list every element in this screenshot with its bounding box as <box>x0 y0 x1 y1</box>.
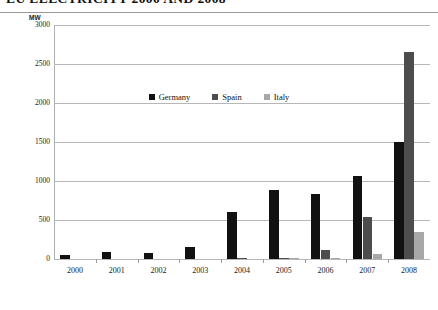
bar-germany-2007 <box>353 176 363 259</box>
y-axis-tick-label: 1500 <box>6 138 50 146</box>
bar-spain-2007 <box>363 217 373 259</box>
chart-title-strip: EU ELECTRICITY 2000 AND 2008 <box>0 0 438 11</box>
bar-spain-2004 <box>237 258 247 259</box>
y-axis-tick-label: 500 <box>6 216 50 224</box>
bar-germany-2003 <box>185 247 195 259</box>
y-axis-tick-label: 0 <box>6 255 50 263</box>
x-axis-tick-mark <box>179 259 180 263</box>
x-axis-tick-mark <box>388 259 389 263</box>
legend-label: Germany <box>159 92 191 102</box>
bar-spain-2005 <box>279 258 289 259</box>
gridline <box>54 181 430 182</box>
bar-chart: MW 050010001500200025003000 200020012002… <box>0 14 438 310</box>
x-axis-tick-label: 2008 <box>379 266 438 275</box>
x-axis-tick-mark <box>96 259 97 263</box>
gridline <box>54 220 430 221</box>
legend-label: Italy <box>274 92 290 102</box>
chart-legend: GermanySpainItaly <box>0 92 438 102</box>
bar-germany-2002 <box>144 253 154 259</box>
y-axis-tick-labels: 050010001500200025003000 <box>0 14 50 310</box>
bar-germany-2004 <box>227 212 237 259</box>
plot-area <box>54 25 430 259</box>
x-axis-tick-mark <box>346 259 347 263</box>
bar-italy-2006 <box>331 258 341 259</box>
legend-item-spain[interactable]: Spain <box>212 92 241 102</box>
gridline <box>54 103 430 104</box>
x-axis-tick-mark <box>221 259 222 263</box>
bar-germany-2008 <box>394 142 404 259</box>
legend-swatch-icon <box>212 94 218 100</box>
x-axis-tick-mark <box>263 259 264 263</box>
legend-item-italy[interactable]: Italy <box>264 92 290 102</box>
y-axis-tick-label: 1000 <box>6 177 50 185</box>
legend-item-germany[interactable]: Germany <box>149 92 191 102</box>
gridline <box>54 142 430 143</box>
legend-swatch-icon <box>264 94 270 100</box>
y-axis-tick-label: 2500 <box>6 60 50 68</box>
legend-label: Spain <box>222 92 241 102</box>
bar-spain-2008 <box>404 52 414 259</box>
bar-germany-2006 <box>311 194 321 259</box>
gridline <box>54 64 430 65</box>
bar-germany-2000 <box>60 255 70 259</box>
bar-germany-2001 <box>102 252 112 259</box>
page-title: EU ELECTRICITY 2000 AND 2008 <box>6 0 226 7</box>
x-axis-tick-mark <box>305 259 306 263</box>
legend-swatch-icon <box>149 94 155 100</box>
gridline <box>54 259 430 260</box>
bar-italy-2007 <box>373 254 383 259</box>
gridline <box>54 25 430 26</box>
bar-italy-2005 <box>289 258 299 259</box>
bar-spain-2006 <box>321 250 331 259</box>
bar-germany-2005 <box>269 190 279 259</box>
y-axis-tick-label: 3000 <box>6 21 50 29</box>
x-axis-tick-mark <box>138 259 139 263</box>
bar-italy-2008 <box>414 232 424 259</box>
title-divider <box>0 12 438 13</box>
